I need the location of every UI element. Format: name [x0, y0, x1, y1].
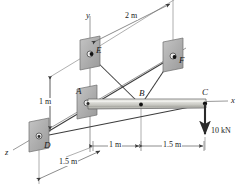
load-label-10kN: 10 kN	[211, 127, 231, 135]
dimension-label-1m-vert: 1 m	[38, 98, 52, 106]
dimline-2m	[96, 4, 170, 41]
joint-label-D: D	[44, 141, 51, 150]
joint-dot-F	[173, 55, 177, 59]
joint-label-F: F	[179, 56, 185, 65]
joint-label-A: A	[76, 87, 82, 96]
statics-diagram-figure: y x z A B C D E F 2 m 1 m 1 m 1.5 m 1.5 …	[0, 0, 244, 187]
member-D-F	[39, 57, 173, 137]
dimension-label-15m-horiz: 1.5 m	[162, 141, 182, 149]
dimension-lines	[41, 4, 204, 178]
axis-label-z: z	[5, 148, 8, 157]
dimension-label-15m-diag: 1.5 m	[58, 158, 78, 166]
axis-label-y: y	[86, 11, 90, 20]
joint-label-C: C	[202, 88, 208, 97]
joint-label-E: E	[96, 46, 102, 55]
guide-diag-baseline	[66, 147, 92, 157]
dimension-label-1m-horiz: 1 m	[108, 141, 122, 149]
joint-dot-E	[90, 52, 94, 56]
joint-dot-A	[87, 102, 90, 105]
joint-label-B: B	[139, 89, 145, 98]
axis-label-x: x	[231, 96, 235, 105]
joint-dot-D	[38, 135, 41, 138]
dimension-label-2m: 2 m	[124, 12, 138, 20]
joint-dot-B	[139, 103, 143, 107]
beam-A-C	[88, 99, 206, 109]
